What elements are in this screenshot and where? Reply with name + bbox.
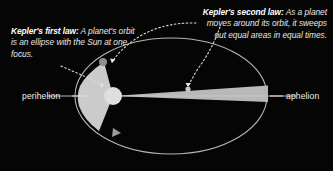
caption-first-law-title: Kepler's first law: bbox=[11, 26, 79, 36]
sun-icon bbox=[104, 87, 122, 105]
caption-second-law-title: Kepler's second law: bbox=[203, 7, 284, 17]
leader-second-law-aphelion-arrowhead-icon bbox=[186, 83, 192, 87]
aphelion-swept-area bbox=[113, 86, 268, 103]
label-aphelion: aphelion bbox=[286, 91, 319, 101]
orbit-direction-arrow-icon bbox=[112, 128, 121, 137]
caption-second-law: Kepler's second law: As a planet moves a… bbox=[195, 7, 327, 41]
caption-first-law: Kepler's first law: A planet's orbit is … bbox=[11, 26, 135, 60]
planet-marker-aphelion-icon bbox=[185, 86, 190, 91]
label-perihelion: perihelion bbox=[22, 91, 60, 101]
kepler-laws-diagram: Kepler's first law: A planet's orbit is … bbox=[0, 0, 333, 171]
